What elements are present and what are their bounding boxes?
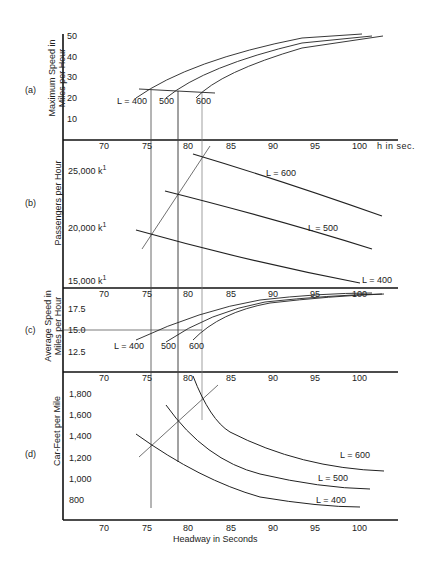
xtick-a-95: 95 [310, 141, 320, 151]
panel-label-a: (a) [25, 85, 36, 95]
ytick-b-20000-sup: 1 [103, 221, 107, 228]
xtick-a-70: 70 [99, 141, 109, 151]
xtick-a-80: 80 [183, 141, 193, 151]
curve-label-d-500: L = 500 [318, 473, 348, 483]
xtick-b-80: 80 [183, 289, 193, 299]
curve-label-a-500: 500 [159, 96, 174, 106]
curve-a-600 [196, 36, 383, 98]
panel-label-b: (b) [25, 198, 36, 208]
xtick-d-95: 95 [310, 523, 320, 533]
ytick-b-15000-text: 15,000 k [68, 276, 103, 286]
xtick-c-75: 75 [142, 373, 152, 383]
y-axis-title-c: Average Speed in Miles per Hour [43, 286, 63, 366]
x-axis-title-d: Headway in Seconds [173, 534, 258, 544]
ytick-b-15000-sup: 1 [103, 274, 107, 281]
xtick-c-100: 100 [352, 373, 367, 383]
ytick-d-1200: 1,200 [69, 453, 92, 463]
ytick-a-30: 30 [67, 72, 77, 82]
xtick-b-95: 95 [310, 289, 320, 299]
ytick-a-10: 10 [67, 114, 77, 124]
y-axis-title-a-line1: Maximum Speed in [47, 33, 57, 123]
ytick-b-25000-text: 25,000 k [68, 166, 103, 176]
panel-b [136, 146, 382, 283]
ytick-b-25000-sup: 1 [103, 164, 107, 171]
ytick-c-12-5: 12.5 [68, 347, 86, 357]
x-axis-title-a: h in sec. [377, 141, 415, 151]
ytick-d-1600: 1,600 [69, 410, 92, 420]
panel-a [136, 34, 383, 98]
xtick-d-80: 80 [183, 523, 193, 533]
curve-c-400 [136, 293, 372, 340]
xtick-d-85: 85 [226, 523, 236, 533]
xtick-a-75: 75 [142, 141, 152, 151]
curve-label-a-400: L = 400 [117, 96, 147, 106]
xtick-a-85: 85 [226, 141, 236, 151]
y-axis-title-c-line1: Average Speed in [43, 286, 53, 366]
ytick-b-20000: 20,000 k1 [68, 220, 106, 233]
ytick-b-20000-text: 20,000 k [68, 223, 103, 233]
panel-label-c: (c) [25, 325, 36, 335]
curve-b-600 [193, 154, 382, 216]
y-axis-title-a-line2: Miles per Hour [57, 33, 67, 123]
curve-label-d-400: L = 400 [316, 495, 346, 505]
xtick-b-70: 70 [99, 289, 109, 299]
ytick-a-20: 20 [67, 93, 77, 103]
panel-label-d: (d) [25, 449, 36, 459]
xtick-b-100: 100 [352, 289, 367, 299]
panel-c [63, 293, 384, 342]
ytick-c-17-5: 17.5 [68, 304, 86, 314]
curve-label-a-600: 600 [196, 96, 211, 106]
curve-label-c-500: 500 [161, 341, 176, 351]
curve-c-600 [193, 294, 384, 340]
curve-label-c-400: L = 400 [114, 341, 144, 351]
ytick-d-800: 800 [69, 495, 84, 505]
y-axis-title-c-line2: Miles per Hour [53, 286, 63, 366]
curve-label-b-400: L = 400 [362, 275, 392, 285]
ytick-a-40: 40 [67, 52, 77, 62]
ytick-b-15000: 15,000 k1 [68, 273, 106, 286]
xtick-c-85: 85 [226, 373, 236, 383]
construction-line-b [142, 146, 210, 249]
ytick-d-1400: 1,400 [69, 431, 92, 441]
xtick-b-85: 85 [226, 289, 236, 299]
xtick-d-100: 100 [352, 523, 367, 533]
curve-label-b-500: L = 500 [308, 223, 338, 233]
xtick-d-90: 90 [268, 523, 278, 533]
xtick-c-90: 90 [268, 373, 278, 383]
xtick-c-70: 70 [99, 373, 109, 383]
curve-label-b-600: L = 600 [266, 168, 296, 178]
panel-d [136, 376, 384, 507]
curve-b-400 [136, 230, 360, 283]
xtick-a-100: 100 [352, 141, 367, 151]
curve-label-c-600: 600 [189, 341, 204, 351]
xtick-c-80: 80 [183, 373, 193, 383]
ytick-d-1000: 1,000 [69, 474, 92, 484]
xtick-d-70: 70 [99, 523, 109, 533]
ytick-c-15-0: 15.0 [68, 325, 86, 335]
xtick-b-90: 90 [268, 289, 278, 299]
y-axis-title-a: Maximum Speed in Miles per Hour [47, 33, 67, 123]
y-axis-title-b: Passengers per Hour [53, 148, 63, 258]
xtick-b-75: 75 [142, 289, 152, 299]
xtick-d-75: 75 [142, 523, 152, 533]
ytick-b-25000: 25,000 k1 [68, 163, 106, 176]
ytick-a-50: 50 [67, 31, 77, 41]
y-axis-title-d: Car-Feet per Mile [52, 381, 62, 481]
curve-b-500 [165, 191, 372, 249]
xtick-a-90: 90 [268, 141, 278, 151]
curve-label-d-600: L = 600 [340, 450, 370, 460]
xtick-c-95: 95 [310, 373, 320, 383]
ytick-d-1800: 1,800 [69, 389, 92, 399]
